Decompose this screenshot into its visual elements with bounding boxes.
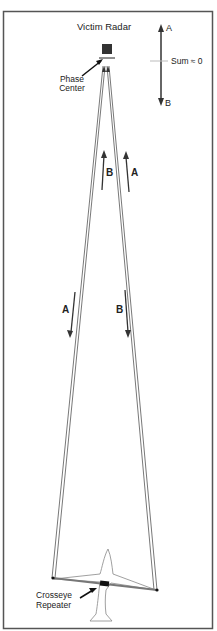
beam-left-inner (55, 66, 105, 578)
beam-left-outer (52, 66, 103, 578)
beam-paths (52, 66, 157, 590)
phase-center-label-2: Center (59, 83, 85, 93)
repeater-label-2: Repeater (36, 600, 71, 610)
left-antenna (51, 576, 54, 579)
legend-arrowhead-up (158, 24, 164, 32)
radar-icon (102, 44, 112, 54)
upper-left-arrowhead (101, 150, 107, 158)
sum-label: Sum ≈ 0 (171, 56, 203, 66)
upper-left-arrow-label: B (106, 167, 113, 178)
upper-left-arrow (102, 155, 104, 190)
upper-right-arrow-label: A (131, 167, 138, 178)
beam-right-outer (109, 66, 157, 590)
legend-arrowhead-down (158, 98, 164, 106)
lower-right-arrowhead (125, 330, 131, 338)
beam-right-inner (107, 66, 154, 590)
frame (4, 12, 213, 629)
legend-b-label: B (165, 98, 171, 108)
repeater-icon (100, 580, 110, 586)
repeater-label-1: Crosseye (36, 590, 72, 600)
upper-right-arrowhead (123, 151, 129, 159)
lower-left-arrow (71, 292, 75, 332)
legend-a-label: A (166, 23, 172, 33)
lower-left-arrowhead (67, 330, 73, 338)
lower-right-arrow-label: B (116, 304, 123, 315)
lower-left-arrow-label: A (62, 304, 69, 315)
crosseye-jamming-diagram: Victim Radar Phase Center A B Sum ≈ 0 B … (0, 0, 217, 631)
upper-right-arrow (126, 157, 129, 192)
victim-radar-label: Victim Radar (77, 21, 131, 32)
right-antenna (155, 588, 158, 591)
